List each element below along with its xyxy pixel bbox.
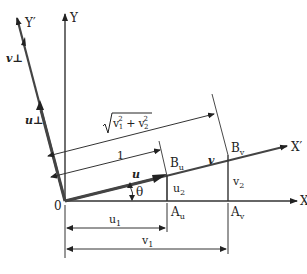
point-au-label: Au [170,205,185,221]
v-vector-label: v [208,154,215,167]
y-axis-label: Y [69,11,79,25]
unit-length-dimension [51,150,160,177]
u-vector-label: u [132,168,140,181]
bv-perp-extension [212,94,228,155]
x-prime-axis-label: X′ [291,140,303,154]
u-perp-label: u⊥ [25,114,44,127]
unit-length-label: 1 [117,149,124,162]
point-bv-label: Bv [231,141,245,157]
origin-label: 0 [54,199,62,213]
v2-label: v2 [232,175,244,190]
rotation-diagram: X Y Y′ v⊥ u⊥ X′ u v Bu Bv u2 v2 Au Av 0 … [0,0,307,274]
theta-arrow-down-icon [129,195,135,201]
u-perp-vector [41,110,65,201]
theta-label: θ [136,185,143,199]
u1-label: u1 [109,213,121,228]
svg-text:v21+v22: v21+v22 [112,115,149,131]
u-perp-arrow-icon [36,100,44,110]
x-axis-label: X [300,194,307,208]
bu-perp-extension [159,141,167,176]
u2-label: u2 [173,182,185,197]
u-vector [65,178,158,201]
u-arrow-icon [152,174,167,183]
magnitude-v-label: v21+v22 [103,113,152,133]
v1-label: v1 [141,234,153,249]
y-prime-axis-label: Y′ [24,16,36,30]
point-av-label: Av [230,205,245,221]
v-perp-label: v⊥ [6,52,23,65]
point-bu-label: Bu [170,156,184,172]
